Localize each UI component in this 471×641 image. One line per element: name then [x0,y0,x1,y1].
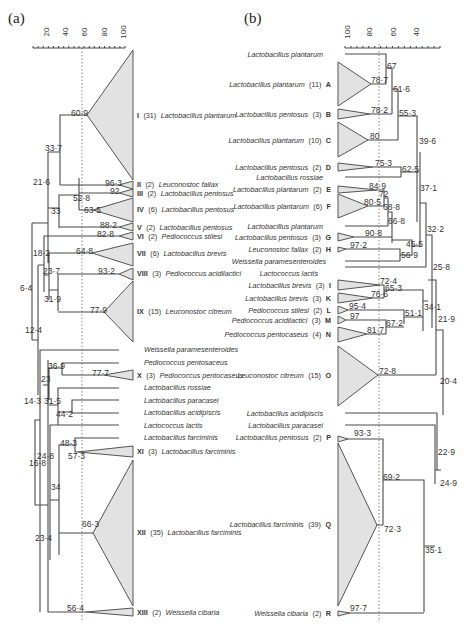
leaf-label: Lactobacillus acidipiscis [144,408,221,417]
node-value: 76·6 [371,289,388,299]
cluster-triangle [338,346,378,406]
panel-b: 100 80 60 40 67 78·7 61·6 78·2 55·3 80 [225,25,458,622]
cluster-triangle [338,163,373,171]
node-value: 23 [41,374,51,384]
leaf-label: XI (3) Lactobacillus farciminis [137,440,236,457]
leaf-label: Weissella cibaria (2) R [254,602,332,619]
axis-tick: 20 [42,27,51,36]
node-value: 56·4 [67,603,84,613]
leaf-label: II (2) Leuconostoc fallax [137,173,219,190]
leaf-label: VII (6) Lactobacillus brevis [137,242,227,259]
cluster-triangle [338,443,377,606]
leaf-label: Pediococcus pentocaseus (4) N [225,323,331,340]
node-value: 45·5 [406,239,423,249]
leaf-label: Lactobacillus pentosus (2) D [235,156,331,173]
node-value: 35·1 [425,545,442,555]
node-value: 62·5 [402,164,419,174]
axis-tick: 40 [412,27,421,36]
leaf-label: XII (35) Lactobacillus farciminis [137,521,242,538]
node-value: 72·3 [384,524,401,534]
node-value: 72·8 [379,366,396,376]
node-value: 66·8 [388,216,405,226]
node-value: 97·7 [350,603,367,613]
cluster-triangle [338,436,348,442]
cluster-triangle [338,62,371,106]
cluster-triangle [78,446,133,457]
node-value: 31·9 [44,294,61,304]
node-value: 78·2 [371,105,388,115]
axis-tick: 80 [365,27,374,36]
node-value: 93·3 [354,428,371,438]
cluster-triangle [338,327,367,342]
leaf-label: Lactobacillus rossiae [144,383,211,392]
node-value: 14·3 [24,396,41,406]
node-value: 21·9 [438,314,455,324]
node-value: 48·3 [60,438,77,448]
node-value: 57·3 [68,451,85,461]
node-value: 22·9 [438,447,455,457]
leaf-label: Lactobacillus acidipiscis [247,409,324,418]
node-value: 21·6 [33,177,50,187]
node-value: 34 [51,482,61,492]
node-value: 44·2 [56,409,73,419]
node-value: 67·2 [386,318,403,328]
node-value: 32·2 [427,224,444,234]
leaf-label: VIII (3) Pediococcus acidilactici [137,262,241,279]
node-value: 90·8 [365,228,382,238]
cluster-triangle [338,611,350,616]
node-value: 37·1 [420,183,437,193]
leaf-label: Lactococcus lactis [144,421,203,430]
node-value: 69·2 [383,472,400,482]
node-value: 80 [370,131,380,141]
axis-tick: 80 [100,27,109,36]
node-value: 56·9 [401,250,418,260]
leaf-label: Lactobacillus farciminis (39) Q [230,513,332,530]
cluster-triangle [338,306,348,314]
node-value: 61·6 [393,84,410,94]
cluster-triangle [338,247,346,252]
leaf-label: I (31) Lactobacillus plantarum [137,104,236,121]
node-value: 12·4 [25,325,42,335]
node-value: 77·7 [92,368,109,378]
panel-a: 20 40 60 80 100 60·9 33·7 21·6 96·3 92 5… [20,25,243,622]
cluster-triangle [86,608,133,616]
leaf-label: Weissella paramesenteroides [144,345,239,354]
node-value: 16·8 [29,458,46,468]
node-value: 23·4 [35,533,52,543]
leaf-label: IV (6) Lactobacillus pentosus [137,198,235,215]
axis-tick: 60 [389,27,398,36]
dendrogram-figure: 20 40 60 80 100 60·9 33·7 21·6 96·3 92 5… [0,0,471,641]
node-value: 81·7 [367,325,384,335]
node-value: 67 [387,61,397,71]
panel-a-axis: 20 40 60 80 100 [33,25,128,48]
node-value: 31·5 [44,396,61,406]
node-value: 66·3 [82,519,99,529]
node-value: 18·2 [33,248,50,258]
cluster-triangle [92,243,133,266]
cluster-triangle [119,189,133,197]
node-value: 92 [110,186,120,196]
node-value: 6·4 [20,283,33,293]
panel-b-axis: 100 80 60 40 [343,25,440,48]
node-value: 60·9 [71,108,88,118]
axis-tick: 60 [80,27,89,36]
node-value: 97 [350,311,360,321]
node-value: 93·2 [98,266,115,276]
cluster-triangle [338,316,346,324]
leaf-label: Lactobacillus plantarum (10) C [229,129,331,146]
node-value: 25·8 [433,262,450,272]
leaf-label: V (2) Lactobacillus pentosus [137,216,233,233]
node-value: 39·6 [419,136,436,146]
node-value: 63·5 [84,205,101,215]
node-value: 68·8 [383,202,400,212]
leaf-label: Lactococcus lactis [260,269,319,278]
leaf-label: Lactobacillus rossiae [256,173,323,182]
leaf-label: Lactobacillus pentosus (3) B [235,103,331,120]
node-value: 55·3 [399,108,416,118]
cluster-triangle [104,281,133,342]
node-value: 52·8 [73,193,90,203]
cluster-triangle [119,232,133,240]
node-value: 75·3 [375,158,392,168]
axis-tick: 100 [343,25,352,39]
node-value: 23·7 [43,266,60,276]
